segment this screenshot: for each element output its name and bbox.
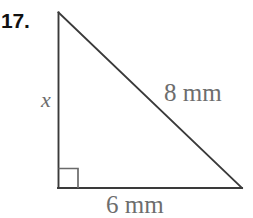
label-horizontal-leg: 6 mm <box>106 191 164 218</box>
label-hypotenuse: 8 mm <box>164 79 222 106</box>
geometry-figure: 17. x 8 mm 6 mm <box>0 0 253 218</box>
right-angle-square-icon <box>59 169 79 189</box>
right-triangle-drawing <box>0 0 253 218</box>
label-vertical-leg: x <box>41 89 51 111</box>
